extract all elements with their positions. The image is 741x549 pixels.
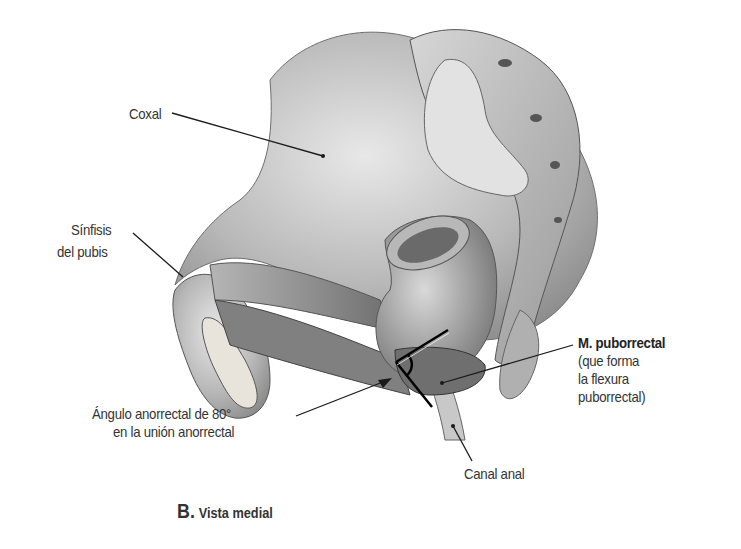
label-sinfisis-line1: Sínfisis — [71, 221, 111, 239]
pelvis-illustration — [0, 0, 741, 549]
label-puborrectal-title: M. puborrectal — [578, 334, 665, 352]
leader-angulo — [296, 380, 388, 416]
leader-sinfisis — [133, 233, 183, 277]
label-puborrectal-line3: puborrectal) — [578, 388, 645, 406]
label-sinfisis-line2: del pubis — [57, 243, 107, 261]
caption-letter: B. — [177, 499, 195, 522]
figure-caption: B. Vista medial — [177, 499, 273, 523]
caption-title: Vista medial — [199, 504, 273, 521]
label-puborrectal-line1: (que forma — [578, 352, 639, 370]
label-angulo-line2: en la unión anorrectal — [113, 423, 234, 441]
label-canal-anal: Canal anal — [464, 465, 524, 483]
label-puborrectal-line2: la flexura — [578, 370, 629, 388]
anatomy-figure: Coxal Sínfisis del pubis M. puborrectal … — [0, 0, 741, 549]
label-coxal: Coxal — [129, 105, 161, 123]
label-angulo-line1: Ángulo anorrectal de 80° — [92, 405, 231, 423]
